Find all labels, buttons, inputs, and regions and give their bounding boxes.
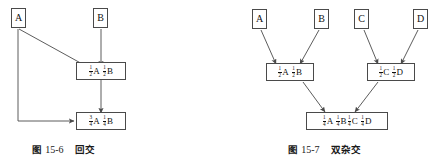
figure-sheet: A B 1 2 A 1 2 B xyxy=(0,0,431,168)
allele-a: A xyxy=(282,68,289,77)
node-doublecross-progeny-genotype[interactable]: 1 4 A 1 4 B 1 4 C 1 xyxy=(306,112,388,130)
allele-a: A xyxy=(327,117,334,126)
caption-number: 15-6 xyxy=(45,144,63,155)
fraction-one-quarter: 1 4 xyxy=(361,115,365,127)
node-parent-b[interactable]: B xyxy=(314,9,329,29)
allele-a: A xyxy=(93,117,100,126)
caption-figure-15-6: 图 15-6 回交 xyxy=(32,142,95,156)
fraction-one-half: 1 2 xyxy=(103,65,107,77)
node-parent-b-label: B xyxy=(97,13,104,23)
node-parent-c[interactable]: C xyxy=(354,9,369,29)
allele-b: B xyxy=(340,117,346,126)
caption-number: 15-7 xyxy=(301,144,319,155)
allele-b: B xyxy=(296,68,302,77)
node-parent-d[interactable]: D xyxy=(413,9,428,29)
node-parent-a[interactable]: A xyxy=(252,9,267,29)
arrow-parent-a-to-f1-ab xyxy=(261,30,276,64)
caption-label: 图 xyxy=(288,142,298,156)
fraction-one-half: 1 2 xyxy=(379,66,383,78)
term-half-d: 1 2 D xyxy=(392,66,403,78)
fraction-one-quarter: 1 4 xyxy=(103,115,107,127)
allele-b: B xyxy=(107,67,113,76)
term-quarter-d: 1 4 D xyxy=(361,115,372,127)
node-parent-b[interactable]: B xyxy=(93,8,108,28)
node-parent-a[interactable]: A xyxy=(11,8,26,28)
term-quarter-a: 1 4 A xyxy=(323,115,334,127)
allele-a: A xyxy=(93,67,100,76)
node-parent-a-label: A xyxy=(256,14,263,24)
allele-c: C xyxy=(352,117,358,126)
term-half-a: 1 2 A xyxy=(278,66,289,78)
term-quarter-c: 1 4 C xyxy=(348,115,358,127)
fraction-one-quarter: 1 4 xyxy=(336,115,340,127)
node-parent-c-label: C xyxy=(358,14,365,24)
node-f1-cd-genotype[interactable]: 1 2 C 1 2 D xyxy=(367,63,415,81)
caption-label: 图 xyxy=(32,142,42,156)
node-parent-a-label: A xyxy=(15,13,22,23)
term-half-b: 1 2 B xyxy=(103,65,113,77)
arrow-parent-d-to-f1-cd xyxy=(401,30,418,64)
node-f1-ab-genotype[interactable]: 1 2 A 1 2 B xyxy=(266,63,314,81)
arrow-parent-a-to-bc1 xyxy=(18,29,74,121)
term-half-c: 1 2 C xyxy=(379,66,389,78)
term-half-a: 1 2 A xyxy=(89,65,100,77)
node-backcross-progeny-genotype[interactable]: 3 4 A 1 4 B xyxy=(76,112,126,130)
term-quarter-b: 1 4 B xyxy=(336,115,346,127)
arrow-f1-cd-to-doublecross xyxy=(355,82,378,112)
figure-backcross: A B 1 2 A 1 2 B xyxy=(0,0,215,168)
fraction-one-half: 1 2 xyxy=(292,66,296,78)
node-parent-d-label: D xyxy=(417,14,424,24)
allele-d: D xyxy=(396,68,403,77)
term-three-quarter-a: 3 4 A xyxy=(89,115,100,127)
fraction-one-quarter: 1 4 xyxy=(323,115,327,127)
fraction-one-quarter: 1 4 xyxy=(348,115,352,127)
fraction-one-half: 1 2 xyxy=(89,65,93,77)
figure-doublecross: A B C D 1 2 A 1 2 B xyxy=(215,0,431,168)
allele-c: C xyxy=(383,68,389,77)
allele-d: D xyxy=(365,117,372,126)
term-quarter-b: 1 4 B xyxy=(103,115,113,127)
allele-b: B xyxy=(107,117,113,126)
node-parent-b-label: B xyxy=(318,14,325,24)
fraction-one-half: 1 2 xyxy=(278,66,282,78)
arrow-parent-c-to-f1-cd xyxy=(364,30,378,64)
caption-title: 双杂交 xyxy=(331,142,362,156)
arrow-parent-a-to-f1 xyxy=(19,29,86,66)
arrow-f1-ab-to-doublecross xyxy=(303,82,325,112)
arrow-parent-b-to-f1-ab xyxy=(300,30,319,64)
caption-figure-15-7: 图 15-7 双杂交 xyxy=(288,142,361,156)
fraction-one-half: 1 2 xyxy=(392,66,396,78)
fraction-three-quarters: 3 4 xyxy=(89,115,93,127)
node-f1-genotype[interactable]: 1 2 A 1 2 B xyxy=(76,62,126,80)
term-half-b: 1 2 B xyxy=(292,66,302,78)
caption-title: 回交 xyxy=(75,142,95,156)
